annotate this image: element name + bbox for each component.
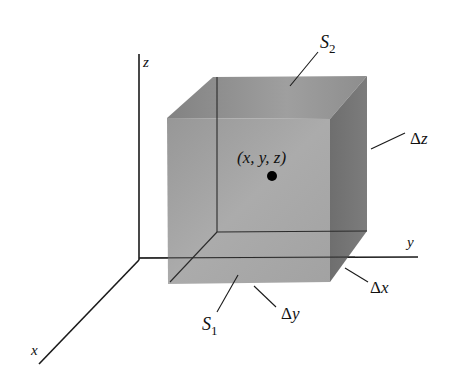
dx-var: x — [380, 278, 389, 297]
dx-delta: Δ — [370, 278, 381, 297]
dz-label: Δz — [410, 129, 428, 148]
x-axis — [39, 260, 139, 364]
dz-leader — [371, 133, 405, 149]
dy-delta: Δ — [281, 304, 292, 323]
dx-leader — [345, 268, 368, 282]
s1-label: S1 — [202, 314, 218, 338]
center-point — [267, 171, 277, 181]
box — [139, 76, 367, 284]
s2-name: S — [320, 32, 329, 52]
point-label: (x, y, z) — [237, 148, 286, 167]
s1-subscript: 1 — [211, 323, 218, 338]
dy-var: y — [290, 304, 300, 323]
dy-label: Δy — [281, 304, 300, 323]
s2-subscript: 2 — [329, 41, 336, 56]
z-axis-label: z — [142, 54, 149, 70]
s1-name: S — [202, 314, 211, 334]
dz-var: z — [420, 129, 428, 148]
s2-label: S2 — [320, 32, 336, 56]
volume-element-diagram: z y x (x, y, z) S2 S1 Δz Δx Δy — [0, 0, 458, 376]
x-axis-label: x — [30, 342, 38, 358]
dz-delta: Δ — [410, 129, 421, 148]
dy-leader — [254, 286, 276, 307]
dx-label: Δx — [370, 278, 389, 297]
y-axis-label: y — [405, 234, 414, 250]
